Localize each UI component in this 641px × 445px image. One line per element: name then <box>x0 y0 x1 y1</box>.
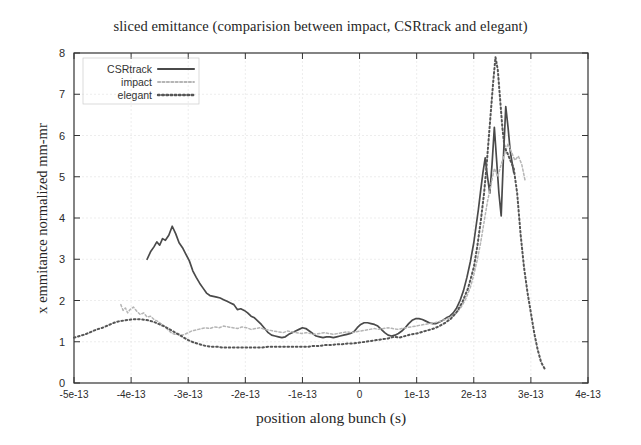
x-tick-label: -2e-13 <box>231 389 260 400</box>
y-tick-label: 7 <box>59 88 65 100</box>
legend-label-csrtrack: CSRtrack <box>107 63 153 75</box>
legend-label-impact: impact <box>121 76 152 88</box>
y-tick-label: 1 <box>59 336 65 348</box>
y-tick-label: 3 <box>59 253 65 265</box>
x-tick-label: 0 <box>357 389 363 400</box>
x-tick-label: 1e-13 <box>404 389 430 400</box>
legend-label-elegant: elegant <box>118 89 153 101</box>
plot-canvas: 012345678 -5e-13-4e-13-3e-13-2e-13-1e-13… <box>0 0 641 445</box>
y-tick-label: 4 <box>59 212 65 224</box>
x-tick-label: -4e-13 <box>117 389 146 400</box>
y-tick-label: 5 <box>59 171 65 183</box>
y-tick-label: 0 <box>59 377 65 389</box>
x-tick-label: -3e-13 <box>174 389 203 400</box>
x-tick-label: 4e-13 <box>575 389 601 400</box>
y-tick-label: 8 <box>59 47 65 59</box>
y-tick-label: 6 <box>59 130 65 142</box>
series-line-csrtrack <box>147 107 514 338</box>
x-tick-label: -5e-13 <box>60 389 89 400</box>
x-tick-label: 3e-13 <box>518 389 544 400</box>
chart-figure: sliced emittance (comparision between im… <box>0 0 641 445</box>
legend: CSRtrackimpactelegant <box>83 58 199 104</box>
series-line-impact <box>121 144 525 335</box>
x-tick-label: 2e-13 <box>461 389 487 400</box>
y-tick-label: 2 <box>59 295 65 307</box>
x-tick-label: -1e-13 <box>288 389 317 400</box>
